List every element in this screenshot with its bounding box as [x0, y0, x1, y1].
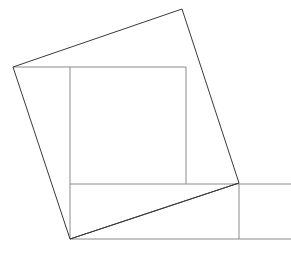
quadrilateral-outline — [13, 9, 239, 239]
geometric-figure-svg — [0, 0, 291, 255]
figure-canvas — [0, 0, 291, 255]
